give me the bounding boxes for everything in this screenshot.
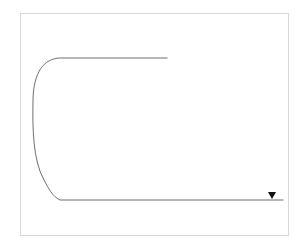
figure-border — [21, 14, 289, 236]
race-track-path — [33, 58, 283, 200]
race-track-figure — [0, 0, 304, 248]
figure-canvas — [0, 0, 304, 248]
finish-marker-triangle — [268, 192, 276, 199]
